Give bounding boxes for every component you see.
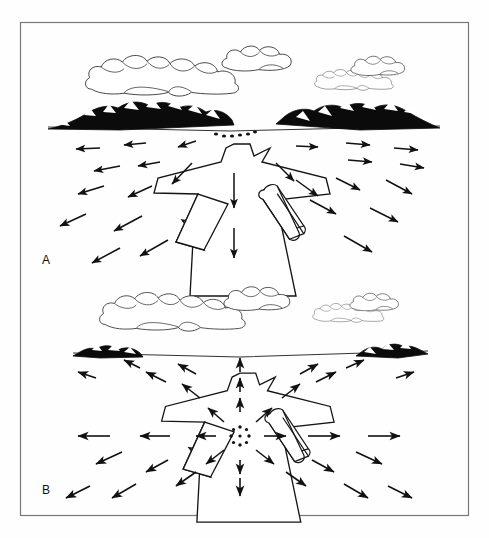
panel-a-label: A: [42, 253, 51, 267]
descending-microburst-dots: [214, 131, 257, 138]
cloud-bank-left: [100, 292, 246, 331]
panel-a-runway-complex: [154, 144, 330, 296]
panel-b-label: B: [42, 483, 51, 497]
cloud-bank-left: [85, 55, 238, 96]
cloud-small-upper: [222, 46, 291, 71]
panel-a-mountain-left: [48, 99, 234, 130]
cloud-small-right: [351, 56, 405, 75]
figure-container: A: [0, 0, 489, 538]
panel-b-mountain-right: [356, 342, 428, 358]
panel-a-wind-arrows-left: [60, 141, 196, 263]
panel-b-clouds: [100, 287, 399, 331]
panel-a-clouds: [85, 46, 404, 96]
panel-b: B: [42, 287, 428, 522]
surface-microburst-starburst: [229, 425, 250, 446]
panel-a: A: [42, 46, 440, 296]
cloud-small-right: [350, 293, 398, 310]
panel-a-mountain-right: [276, 100, 440, 130]
panel-b-mountain-left: [73, 344, 143, 358]
microburst-figure: A: [0, 0, 489, 538]
panel-a-wind-arrows-right: [296, 143, 424, 252]
